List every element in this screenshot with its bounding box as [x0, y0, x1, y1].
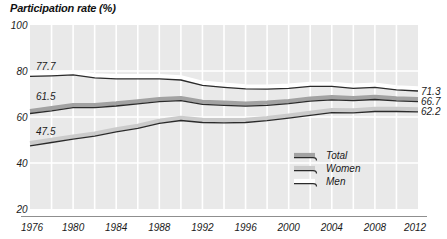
legend-label: Total — [326, 149, 347, 162]
x-tick-label: 1976 — [21, 222, 44, 233]
y-tick-label: 60 — [16, 112, 28, 123]
chart-legend: TotalWomenMen — [293, 149, 360, 188]
x-tick-label: 1984 — [105, 222, 128, 233]
legend-key-total-icon — [293, 150, 320, 162]
x-tick-label: 2008 — [363, 222, 387, 233]
legend-key-men-icon — [293, 176, 320, 188]
x-tick-label: 2004 — [320, 222, 344, 233]
line-chart: 61.566.747.562.277.771.31008060402019761… — [0, 0, 447, 239]
y-tick-label: 20 — [15, 204, 28, 215]
y-tick-label: 80 — [16, 66, 28, 77]
y-tick-label: 40 — [16, 158, 28, 169]
x-tick-label: 1996 — [234, 222, 257, 233]
start-value-label: 77.7 — [36, 61, 56, 72]
x-tick-label: 1980 — [62, 222, 85, 233]
end-value-label: 62.2 — [421, 106, 441, 117]
start-value-label: 61.5 — [36, 91, 56, 102]
x-tick-label: 1992 — [191, 222, 214, 233]
start-value-label: 47.5 — [36, 126, 56, 137]
legend-item-women: Women — [293, 162, 360, 175]
x-tick-label: 1988 — [148, 222, 171, 233]
legend-label: Women — [326, 162, 360, 175]
legend-item-men: Men — [293, 175, 360, 188]
x-tick-label: 2000 — [277, 222, 301, 233]
legend-item-total: Total — [293, 149, 360, 162]
x-tick-label: 2012 — [403, 222, 427, 233]
y-tick-label: 100 — [11, 20, 28, 31]
end-value-label: 71.3 — [421, 86, 441, 97]
legend-key-women-icon — [293, 163, 320, 175]
chart-container: Participation rate (%) 61.566.747.562.27… — [0, 0, 447, 239]
legend-label: Men — [326, 175, 345, 188]
